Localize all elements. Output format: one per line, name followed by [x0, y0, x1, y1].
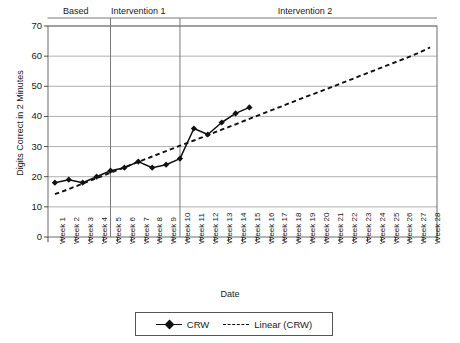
data-point-marker — [163, 162, 169, 168]
x-tick-label: Week 3 — [86, 217, 95, 244]
x-tick-label: Week 19 — [308, 213, 317, 244]
x-tick-label: Week 17 — [280, 213, 289, 244]
x-tick-label: Week 8 — [155, 217, 164, 244]
data-point-marker — [66, 177, 72, 183]
data-point-marker — [246, 104, 252, 110]
chart-legend: CRW Linear (CRW) — [135, 312, 333, 336]
x-tick-label: Week 26 — [405, 213, 414, 244]
x-tick-label: Week 4 — [100, 217, 109, 244]
plot-frame — [48, 26, 437, 237]
legend-dashed-line-icon — [223, 320, 249, 329]
x-tick-label: Week 6 — [128, 217, 137, 244]
x-tick-label: Week 2 — [72, 217, 81, 244]
legend-label-linear-crw: Linear (CRW) — [254, 319, 312, 330]
chart-container: BasedIntervention 1Intervention 2 Digits… — [0, 0, 460, 343]
x-tick-label: Week 5 — [114, 217, 123, 244]
legend-item-linear-crw: Linear (CRW) — [223, 319, 312, 330]
x-tick-label: Week 18 — [294, 213, 303, 244]
x-tick-label: Week 27 — [419, 213, 428, 244]
x-tick-label: Week 16 — [267, 213, 276, 244]
series-line-crw — [55, 107, 250, 182]
legend-item-crw: CRW — [156, 319, 210, 330]
x-tick-label: Week 24 — [378, 213, 387, 244]
x-tick-label: Week 21 — [336, 213, 345, 244]
x-tick-label: Week 13 — [225, 213, 234, 244]
x-tick-label: Week 1 — [58, 217, 67, 244]
x-tick-label: Week 12 — [211, 213, 220, 244]
x-tick-label: Week 9 — [169, 217, 178, 244]
data-point-marker — [191, 125, 197, 131]
data-point-marker — [52, 180, 58, 186]
x-tick-label: Week 14 — [239, 213, 248, 244]
legend-label-crw: CRW — [187, 319, 210, 330]
x-tick-label: Week 11 — [197, 213, 206, 244]
x-axis-title: Date — [0, 289, 460, 299]
x-tick-label: Week 23 — [364, 213, 373, 244]
x-tick-label: Week 28 — [433, 213, 442, 244]
x-tick-label: Week 15 — [253, 213, 262, 244]
x-tick-label: Week 20 — [322, 213, 331, 244]
x-tick-label: Week 10 — [183, 213, 192, 244]
legend-solid-diamond-icon — [156, 320, 182, 329]
x-tick-label: Week 22 — [350, 213, 359, 244]
x-tick-label: Week 7 — [142, 217, 151, 244]
x-tick-label: Week 25 — [392, 213, 401, 244]
data-point-marker — [177, 156, 183, 162]
data-point-marker — [149, 165, 155, 171]
